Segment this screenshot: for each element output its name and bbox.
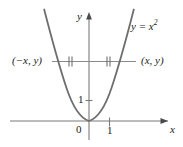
x-axis-label: x [170,124,175,135]
point-right-label: (x, y) [141,55,164,66]
x-axis-arrowhead [161,118,169,124]
parabola-figure: y = x2 (−x, y) (x, y) y x 0 1 1 [0,0,183,147]
point-left-label: (−x, y) [12,55,42,66]
y-axis-arrowhead [86,12,92,20]
curve-equation-base: y = x [131,20,154,32]
origin-label: 0 [76,124,82,135]
y-axis-label: y [77,11,82,22]
y-axis-tick-one-label: 1 [78,94,84,105]
curve-equation-label: y = x2 [131,19,157,32]
curve-equation-exponent: 2 [154,18,158,27]
x-axis-tick-one-label: 1 [107,125,113,136]
